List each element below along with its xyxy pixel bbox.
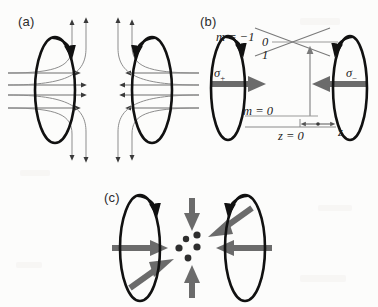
sigma-minus-sign: − bbox=[352, 73, 357, 83]
axis-label-z-origin: z = 0 bbox=[278, 129, 304, 144]
sigma-plus-sign: + bbox=[220, 73, 225, 83]
panel-c-beams bbox=[112, 198, 272, 298]
level-label-m-plus-one: 1 bbox=[262, 48, 268, 63]
level-label-m-zero-ground: m = 0 bbox=[243, 104, 273, 119]
panel-c-atom-cloud bbox=[175, 231, 200, 261]
beam-label-sigma-minus: σ− bbox=[346, 66, 357, 83]
panel-label-b: (b) bbox=[200, 14, 217, 29]
axis-label-z: z bbox=[338, 125, 343, 140]
panel-a-left-coil bbox=[35, 37, 75, 143]
panel-b-sigma-minus-beam bbox=[312, 76, 366, 92]
panel-a-field-lines bbox=[8, 20, 199, 160]
panel-a-right-coil bbox=[132, 37, 172, 143]
panel-b-left-coil bbox=[211, 36, 245, 140]
mot-figure: (a) (b) (c) m = −1 0 1 m = 0 z = 0 z σ+ … bbox=[0, 0, 378, 307]
figure-canvas bbox=[0, 0, 378, 307]
level-label-m-minus-one: m = −1 bbox=[216, 30, 254, 45]
panel-label-a: (a) bbox=[18, 14, 35, 29]
beam-label-sigma-plus: σ+ bbox=[214, 66, 225, 83]
panel-label-c: (c) bbox=[104, 190, 120, 205]
